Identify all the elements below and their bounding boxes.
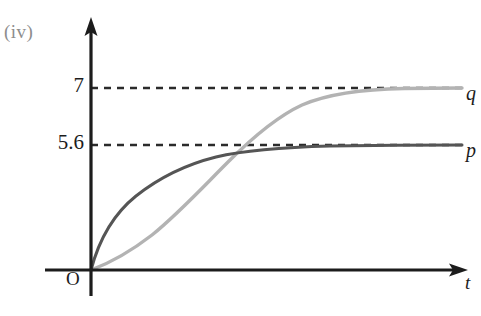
part-number-label: (iv) — [4, 21, 33, 43]
x-axis-label: t — [465, 272, 470, 294]
y-axis-tick-label-upper: 7 — [58, 73, 84, 98]
curve-q — [91, 88, 462, 270]
origin-label: O — [66, 268, 80, 290]
curve-label-p: p — [466, 139, 476, 162]
curve-p — [91, 145, 462, 270]
figure-container: (iv) 7 5.6 O t q p — [0, 0, 481, 316]
curve-label-q: q — [466, 82, 476, 105]
y-axis-tick-label-lower: 5.6 — [42, 130, 84, 155]
